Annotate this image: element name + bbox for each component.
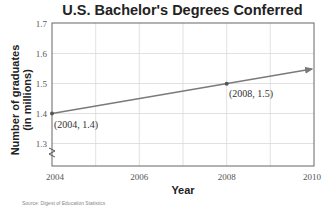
data-point-2008: [225, 82, 229, 86]
source-note: Source: Digest of Education Statistics: [22, 200, 105, 206]
y-tick-1.4: 1.4: [36, 109, 48, 119]
x-tick-2006: 2006: [130, 172, 149, 182]
annotation-2008: (2008, 1.5): [229, 88, 273, 100]
y-tick-1.5: 1.5: [36, 79, 48, 89]
y-tick-1.7: 1.7: [36, 19, 48, 29]
plot-area: 1.7 1.6 1.5 1.4 1.3 2004 2006 2008 2010 …: [0, 0, 325, 206]
x-tick-2008: 2008: [218, 172, 237, 182]
x-tick-2010: 2010: [303, 172, 322, 182]
x-tick-2004: 2004: [46, 172, 65, 182]
axis-break-icon: [49, 148, 55, 157]
y-tick-1.3: 1.3: [36, 139, 48, 149]
annotation-2004: (2004, 1.4): [54, 119, 98, 131]
y-tick-1.6: 1.6: [36, 49, 48, 59]
x-axis-label: Year: [52, 184, 314, 196]
data-point-2004: [50, 112, 54, 116]
